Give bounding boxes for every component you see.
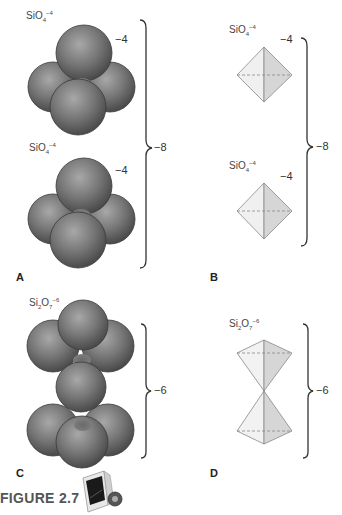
brace-b (301, 38, 313, 246)
panel-label-a: A (16, 271, 24, 283)
formula-b-bottom: SiO4−4 (229, 160, 256, 173)
formula-a-top: SiO4−4 (26, 10, 53, 23)
charge-a-top: −4 (115, 33, 128, 45)
total-charge-d: −6 (316, 384, 329, 396)
total-charge-b: −8 (316, 140, 329, 152)
animation-monitor-icon[interactable] (83, 471, 122, 512)
sio4-tetrahedron-bottom (237, 183, 292, 239)
charge-b-bottom: −4 (280, 170, 293, 182)
brace-d (303, 324, 313, 458)
total-charge-c: −6 (154, 384, 167, 396)
formula-a-bottom: SiO4−4 (29, 142, 56, 155)
formula-c: Si2O7−6 (29, 297, 59, 310)
brace-a (140, 20, 152, 268)
panel-label-b: B (210, 271, 218, 283)
panel-label-d: D (210, 467, 218, 479)
charge-b-top: −4 (280, 33, 293, 45)
sio4-tetrahedron-top (237, 47, 292, 102)
panel-label-c: C (16, 467, 24, 479)
total-charge-a: −8 (154, 141, 167, 153)
formula-d: Si2O7−6 (229, 318, 259, 331)
formula-b-top: SiO4−4 (229, 24, 256, 37)
si2o7-sphere-cluster (27, 300, 134, 468)
brace-c (141, 324, 151, 458)
si2o7-double-tetrahedron (237, 340, 292, 444)
charge-a-bottom: −4 (115, 164, 128, 176)
figure-caption: FIGURE 2.7 (0, 490, 79, 506)
diagram-canvas (0, 0, 342, 515)
